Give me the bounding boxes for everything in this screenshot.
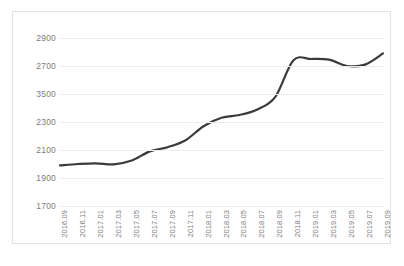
x-axis-tick-label: 2017.05 <box>132 210 141 238</box>
x-axis-tick-label: 2017.07 <box>150 210 159 238</box>
line-chart: 2900270035002300210019001700 2016.092016… <box>0 0 404 266</box>
gridline <box>60 94 383 95</box>
gridline <box>60 150 383 151</box>
x-axis-tick-label: 2016.09 <box>60 210 69 238</box>
y-axis-tick-label: 2700 <box>36 61 56 71</box>
x-axis-tick-label: 2017.03 <box>114 210 123 238</box>
x-axis-tick-label: 2017.09 <box>168 210 177 238</box>
x-axis-tick-label: 2018.01 <box>204 210 213 238</box>
gridline <box>60 122 383 123</box>
gridline <box>60 206 383 207</box>
gridline <box>60 38 383 39</box>
y-axis-tick-label: 1700 <box>36 201 56 211</box>
x-axis-tick-label: 2019.07 <box>365 210 374 238</box>
x-axis: 2016.092016.112017.012017.032017.052017.… <box>60 210 383 250</box>
x-axis-tick-label: 2016.11 <box>78 210 87 237</box>
y-axis-tick-label: 2100 <box>36 145 56 155</box>
y-axis-tick-label: 2300 <box>36 117 56 127</box>
x-axis-tick-label: 2018.11 <box>293 210 302 237</box>
x-axis-tick-label: 2018.03 <box>222 210 231 238</box>
x-axis-tick-label: 2017.01 <box>96 210 105 238</box>
x-axis-tick-label: 2019.05 <box>347 210 356 238</box>
x-axis-tick-label: 2018.05 <box>239 210 248 238</box>
y-axis-tick-label: 3500 <box>36 89 56 99</box>
y-axis-tick-label: 2900 <box>36 33 56 43</box>
plot-area <box>60 38 383 206</box>
gridline <box>60 66 383 67</box>
y-axis: 2900270035002300210019001700 <box>22 38 56 206</box>
x-axis-tick-label: 2019.09 <box>383 210 392 238</box>
x-axis-tick-label: 2018.07 <box>257 210 266 238</box>
x-axis-tick-label: 2018.09 <box>275 210 284 238</box>
gridline <box>60 178 383 179</box>
y-axis-tick-label: 1900 <box>36 173 56 183</box>
x-axis-tick-label: 2019.03 <box>329 210 338 238</box>
x-axis-tick-label: 2019.01 <box>311 210 320 238</box>
x-axis-tick-label: 2017.11 <box>186 210 195 237</box>
